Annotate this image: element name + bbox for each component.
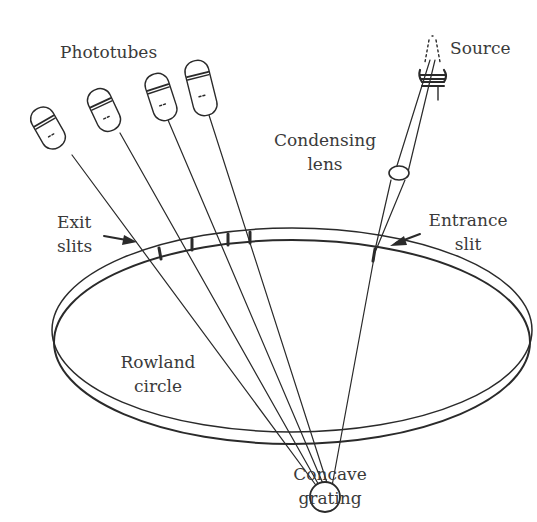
exit-slits-label-line2: slits [57, 234, 92, 258]
rowland-circle-label-line2: circle [108, 374, 208, 398]
exit-slits [159, 232, 250, 259]
concave-grating-label-line1: Concave [275, 462, 385, 486]
condensing-lens [389, 166, 409, 180]
condensing-lens-label: Condensing lens [270, 128, 380, 176]
entrance-slit-label: Entrance slit [418, 208, 518, 256]
phototube-3 [142, 70, 180, 123]
rowland-circle-label: Rowland circle [108, 350, 208, 398]
entrance-slit-label-line1: Entrance [418, 208, 518, 232]
source-label: Source [450, 36, 511, 60]
entrance-rays [332, 60, 435, 486]
concave-grating-label-line2: grating [275, 486, 385, 510]
phototube-4 [183, 58, 220, 118]
phototube-2 [84, 85, 124, 135]
rowland-spectrometer-diagram [0, 0, 537, 522]
condensing-lens-label-line1: Condensing [270, 128, 380, 152]
entrance-slit-arrow [390, 234, 420, 246]
exit-slits-label-line1: Exit [57, 210, 92, 234]
condensing-lens-label-line2: lens [270, 152, 380, 176]
rowland-circle-label-line1: Rowland [108, 350, 208, 374]
exit-slits-label: Exit slits [57, 210, 92, 258]
entrance-slit-label-line2: slit [418, 232, 518, 256]
phototube-1 [27, 103, 70, 153]
concave-grating-label: Concave grating [275, 462, 385, 510]
phototubes-label: Phototubes [60, 40, 157, 64]
